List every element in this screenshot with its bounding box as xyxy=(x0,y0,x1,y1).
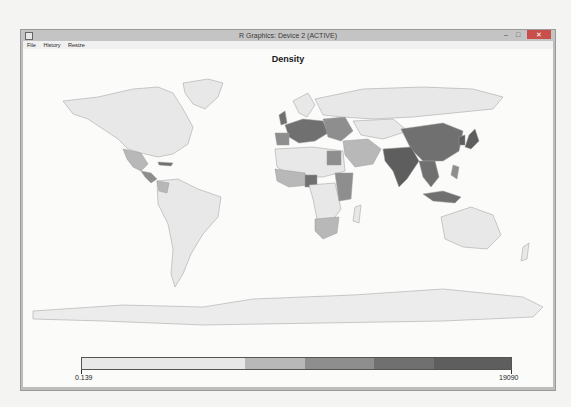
title-bar[interactable]: R Graphics: Device 2 (ACTIVE) – □ ✕ xyxy=(21,30,555,41)
legend-min-label: 0.139 xyxy=(75,374,93,381)
region-southeast-asia xyxy=(419,161,439,187)
legend-max-label: 19090 xyxy=(499,374,518,381)
plot-canvas: Density xyxy=(23,49,553,387)
legend-bin-5 xyxy=(434,358,511,369)
region-japan xyxy=(465,129,479,149)
region-korea xyxy=(459,135,465,145)
close-button[interactable]: ✕ xyxy=(527,30,551,39)
legend-bin-2 xyxy=(245,358,305,369)
r-graphics-window: R Graphics: Device 2 (ACTIVE) – □ ✕ File… xyxy=(20,29,556,391)
region-south-america xyxy=(157,179,221,287)
region-scandinavia xyxy=(293,93,315,117)
color-legend-bar xyxy=(81,357,512,370)
region-western-europe xyxy=(285,119,328,143)
minimize-button[interactable]: – xyxy=(501,30,511,39)
region-madagascar xyxy=(353,205,361,223)
region-new-zealand xyxy=(521,243,529,261)
window-title: R Graphics: Device 2 (ACTIVE) xyxy=(21,30,555,41)
region-southern-africa xyxy=(315,217,339,239)
region-central-asia xyxy=(353,119,408,139)
menu-history[interactable]: History xyxy=(43,42,60,48)
region-middle-east xyxy=(343,139,381,167)
region-australia xyxy=(441,207,501,249)
region-egypt xyxy=(327,151,341,165)
legend-bin-1 xyxy=(82,358,245,369)
maximize-button[interactable]: □ xyxy=(513,30,523,39)
menu-file[interactable]: File xyxy=(27,42,36,48)
region-uk xyxy=(279,111,287,125)
region-indonesia xyxy=(423,191,461,203)
region-eastern-europe xyxy=(323,117,353,141)
menu-bar: File History Resize xyxy=(23,41,553,49)
legend-bin-4 xyxy=(374,358,434,369)
region-colombia xyxy=(157,181,169,193)
region-caribbean xyxy=(158,162,173,166)
region-russia xyxy=(315,87,503,119)
region-antarctica xyxy=(33,289,543,325)
region-philippines xyxy=(451,165,459,179)
region-greenland xyxy=(183,79,223,109)
region-india xyxy=(383,147,419,187)
world-map xyxy=(23,49,553,389)
menu-resize[interactable]: Resize xyxy=(68,42,85,48)
legend-bin-3 xyxy=(305,358,374,369)
region-iberia xyxy=(275,133,289,145)
region-central-america xyxy=(141,171,157,183)
region-north-america xyxy=(63,87,193,157)
